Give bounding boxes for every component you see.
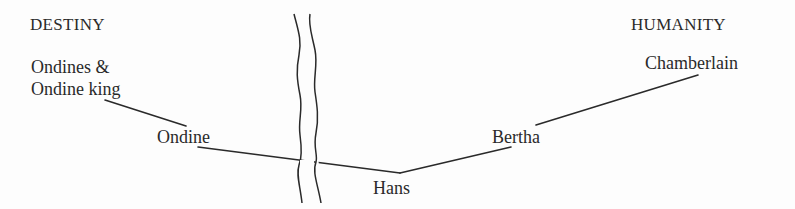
edge-ondines-ondine — [105, 100, 186, 126]
node-hans: Hans — [373, 178, 410, 198]
edge-hans-bertha — [400, 147, 511, 173]
node-ondine: Ondine — [157, 127, 210, 147]
node-ondines-line1: Ondines & — [31, 57, 110, 77]
pole-destiny: DESTINY — [30, 15, 105, 35]
divider-gap — [300, 160, 314, 172]
node-ondines-line2: Ondine king — [31, 79, 121, 99]
edge-bertha-chamberlain — [536, 75, 698, 125]
wavy-divider-left — [294, 14, 302, 203]
wavy-divider-right — [309, 14, 321, 203]
node-bertha: Bertha — [492, 127, 540, 147]
pole-humanity: HUMANITY — [631, 15, 726, 35]
node-chamberlain: Chamberlain — [645, 53, 738, 73]
